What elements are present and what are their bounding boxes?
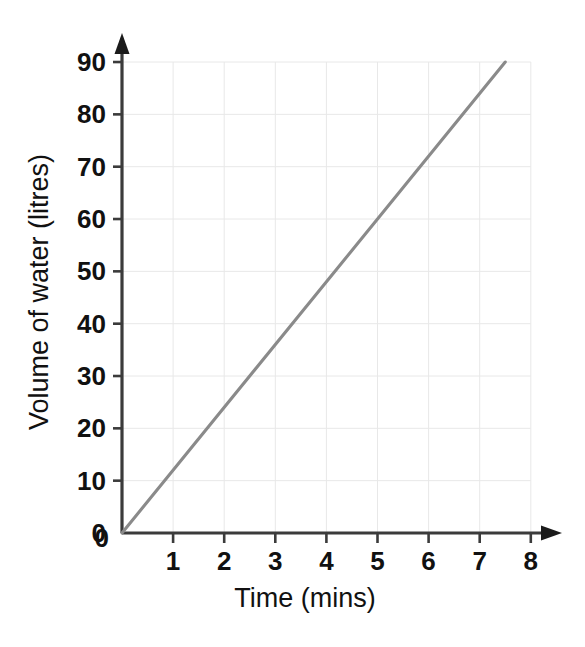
y-tick-label-50: 50 [77, 256, 106, 286]
x-tick-label-1: 1 [166, 546, 180, 576]
x-tick-label-0: 0 [95, 523, 109, 553]
y-tick-label-10: 10 [77, 466, 106, 496]
y-tick-label-60: 60 [77, 204, 106, 234]
line-chart: 0102030405060708090 012345678 Time (mins… [0, 0, 585, 647]
y-tick-label-70: 70 [77, 152, 106, 182]
x-tick-label-5: 5 [370, 546, 384, 576]
x-tick-label-2: 2 [217, 546, 231, 576]
x-tick-label-7: 7 [472, 546, 486, 576]
y-tick-label-80: 80 [77, 99, 106, 129]
y-tick-label-30: 30 [77, 361, 106, 391]
x-axis-title: Time (mins) [234, 583, 376, 613]
y-tick-label-20: 20 [77, 413, 106, 443]
x-tick-label-8: 8 [524, 546, 538, 576]
y-axis-title: Volume of water (litres) [24, 154, 54, 430]
chart-canvas: 0102030405060708090 012345678 Time (mins… [0, 0, 585, 647]
y-tick-label-90: 90 [77, 47, 106, 77]
x-tick-label-6: 6 [421, 546, 435, 576]
x-tick-label-3: 3 [268, 546, 282, 576]
x-tick-label-4: 4 [319, 546, 334, 576]
y-tick-label-40: 40 [77, 309, 106, 339]
